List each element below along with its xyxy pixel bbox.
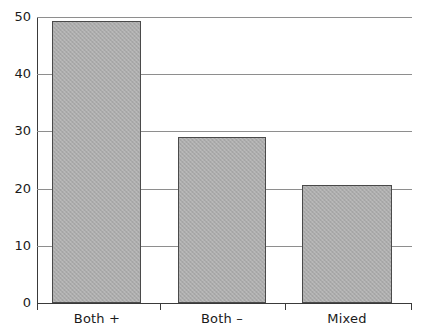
plot-area — [37, 17, 412, 303]
x-tick-right — [411, 304, 412, 310]
y-tick-label-20: 20 — [0, 181, 31, 196]
y-tick-label-40: 40 — [0, 66, 31, 81]
gridline-50 — [37, 17, 412, 18]
x-tick-label-both-plus: Both + — [52, 311, 142, 326]
bar-chart: 50 40 30 20 10 0 Both + Both – Mixed — [0, 0, 424, 336]
y-tick-label-10: 10 — [0, 238, 31, 253]
x-tick-2 — [285, 304, 286, 310]
bar-both-plus — [52, 21, 141, 303]
y-tick-label-30: 30 — [0, 123, 31, 138]
bar-mixed — [302, 185, 392, 303]
x-tick-label-both-minus: Both – — [178, 311, 266, 326]
y-tick-label-50: 50 — [0, 9, 31, 24]
x-tick-left — [37, 304, 38, 310]
y-tick-label-0: 0 — [0, 295, 31, 310]
bar-both-minus — [178, 137, 266, 303]
x-axis-line — [37, 303, 412, 304]
x-tick-1 — [160, 304, 161, 310]
x-tick-label-mixed: Mixed — [302, 311, 392, 326]
